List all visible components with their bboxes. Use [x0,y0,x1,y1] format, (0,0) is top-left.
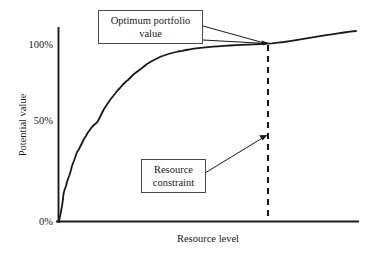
chart-figure: 100% 50% 0% Potential value Resource lev… [0,0,365,255]
constraint-callout-line1: Resource [154,164,193,175]
x-axis-title: Resource level [177,233,239,244]
y-tick-label-0: 0% [39,216,53,227]
constraint-arrowhead [259,135,267,141]
y-axis-title: Potential value [17,93,28,156]
potential-value-curve [59,31,356,221]
optimum-callout-line2: value [139,28,162,39]
constraint-callout-line2: constraint [153,177,194,188]
chart-canvas: 100% 50% 0% Potential value Resource lev… [0,0,365,255]
y-tick-label-100: 100% [29,39,54,50]
optimum-callout-line1: Optimum portfolio [111,15,191,26]
optimum-arrowhead [262,40,270,45]
y-tick-label-50: 50% [34,115,54,126]
constraint-arrow-line [205,137,264,173]
